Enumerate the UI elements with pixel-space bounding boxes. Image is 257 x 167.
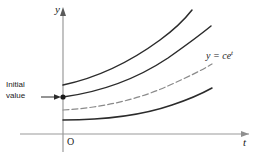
y-axis-arrowhead (60, 7, 66, 16)
initial-value-line-2: value (6, 90, 42, 101)
initial-value-line-1: Initial (6, 79, 42, 90)
initial-value-annotation: Initial value (6, 79, 42, 101)
solution-curve-2 (63, 26, 211, 97)
curve-equation-base: y = ce (206, 50, 231, 61)
solution-curve-1 (63, 10, 192, 85)
initial-value-point-marker (60, 94, 65, 99)
origin-label: O (67, 137, 74, 147)
figure-canvas: y t O y = cet Initial value (0, 0, 257, 167)
t-axis-label: t (243, 137, 246, 148)
curve-equation-exponent: t (231, 49, 233, 57)
initial-value-arrowhead (54, 94, 61, 100)
y-axis-label: y (55, 4, 60, 15)
solution-curve-3-highlighted (63, 64, 212, 110)
curve-equation-label: y = cet (206, 50, 233, 61)
